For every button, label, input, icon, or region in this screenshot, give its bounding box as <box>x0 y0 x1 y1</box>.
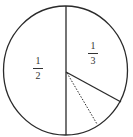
third-boundary-line <box>66 72 121 102</box>
denominator: 3 <box>87 56 99 66</box>
fraction-bar <box>33 68 43 69</box>
numerator: 1 <box>32 56 44 66</box>
fraction-label-one-half: 1 2 <box>32 56 44 81</box>
numerator: 1 <box>87 41 99 51</box>
fraction-bar <box>88 53 98 54</box>
fraction-circle-diagram <box>0 0 133 137</box>
denominator: 2 <box>32 71 44 81</box>
fraction-label-one-third: 1 3 <box>87 41 99 66</box>
